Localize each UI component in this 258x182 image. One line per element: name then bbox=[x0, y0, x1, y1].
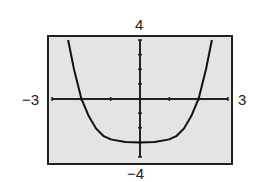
ymax-label: 4 bbox=[135, 16, 143, 33]
xmax-label: 3 bbox=[238, 91, 246, 108]
ymin-label: −4 bbox=[127, 165, 144, 182]
xmin-label: −3 bbox=[22, 91, 39, 108]
